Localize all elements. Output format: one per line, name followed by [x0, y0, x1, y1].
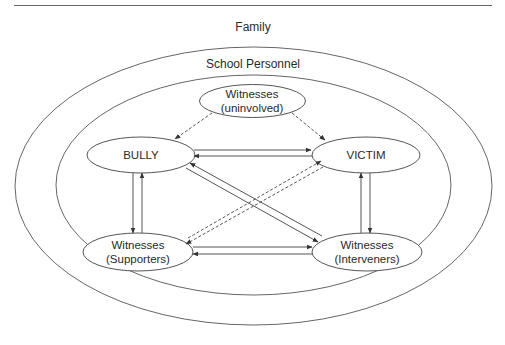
node-supporters-label: Witnesses (Supporters): [106, 238, 170, 266]
edge-bully-to-interveners: [186, 168, 318, 242]
node-bully-label: BULLY: [123, 148, 159, 162]
edge-uninvolved-to-victim: [292, 113, 325, 140]
node-uninvolved-line1: Witnesses: [221, 87, 284, 101]
node-supporters-line1: Witnesses: [106, 238, 170, 252]
edge-victim-to-supporters: [186, 167, 323, 244]
edge-uninvolved-to-bully: [175, 113, 212, 139]
node-uninvolved-line2: (uninvolved): [221, 101, 284, 115]
node-interveners-line2: (Interveners): [334, 252, 399, 266]
node-interveners-line1: Witnesses: [334, 238, 399, 252]
node-interveners-label: Witnesses (Interveners): [334, 238, 399, 266]
family-layer-label: Family: [235, 20, 270, 34]
node-supporters-line2: (Supporters): [106, 252, 170, 266]
school-personnel-layer-label: School Personnel: [206, 57, 300, 71]
node-uninvolved-label: Witnesses (uninvolved): [221, 87, 284, 115]
bullying-relationship-diagram: [0, 0, 505, 345]
node-victim-label: VICTIM: [347, 148, 386, 162]
